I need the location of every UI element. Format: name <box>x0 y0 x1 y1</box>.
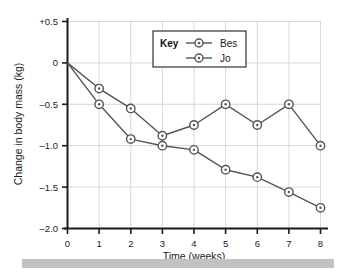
x-tick-label: 6 <box>255 238 260 249</box>
legend-title: Key <box>160 38 179 49</box>
data-point-center-dot <box>161 145 163 147</box>
data-point-center-dot <box>161 135 163 137</box>
y-tick-labels: +0.5 0 –0.5 –1.0 –1.5 –2.0 <box>39 16 58 234</box>
y-tick-label: +0.5 <box>39 16 58 27</box>
y-tick-label: –2.0 <box>40 223 59 234</box>
x-tick-label: 1 <box>96 238 101 249</box>
x-tick-label: 7 <box>286 238 291 249</box>
y-axis-title: Change in body mass (kg) <box>12 63 24 186</box>
footer-caption-bar <box>22 259 334 268</box>
x-tick-label: 3 <box>160 238 165 249</box>
line-chart: +0.5 0 –0.5 –1.0 –1.5 –2.0 0 1 2 3 4 5 6… <box>0 0 344 273</box>
y-tick-label: –1.0 <box>40 140 59 151</box>
chart-canvas: +0.5 0 –0.5 –1.0 –1.5 –2.0 0 1 2 3 4 5 6… <box>0 0 344 273</box>
y-tick-label: –0.5 <box>40 99 59 110</box>
data-point-center-dot <box>224 169 226 171</box>
x-tick-label: 0 <box>65 238 70 249</box>
data-point-center-dot <box>98 87 100 89</box>
x-tick-label: 4 <box>191 238 196 249</box>
legend-label-jo: Jo <box>220 53 231 64</box>
y-tick-label: –1.5 <box>40 182 59 193</box>
legend-marker-dot-jo <box>198 57 200 59</box>
data-point-center-dot <box>193 149 195 151</box>
data-point-center-dot <box>319 207 321 209</box>
legend-label-bes: Bes <box>220 38 237 49</box>
x-tick-label: 8 <box>318 238 323 249</box>
data-point-center-dot <box>193 124 195 126</box>
data-point-center-dot <box>256 176 258 178</box>
legend-marker-dot-bes <box>198 42 200 44</box>
data-point-center-dot <box>224 103 226 105</box>
x-tick-labels: 0 1 2 3 4 5 6 7 8 <box>65 238 323 249</box>
data-point-center-dot <box>256 124 258 126</box>
data-point-center-dot <box>130 138 132 140</box>
data-point-center-dot <box>319 145 321 147</box>
data-point-center-dot <box>130 107 132 109</box>
x-tick-label: 2 <box>128 238 133 249</box>
data-point-center-dot <box>288 103 290 105</box>
legend: Key Bes Jo <box>153 31 246 67</box>
data-point-center-dot <box>288 191 290 193</box>
y-tick-label: 0 <box>53 57 58 68</box>
data-point-center-dot <box>98 103 100 105</box>
x-tick-label: 5 <box>223 238 228 249</box>
